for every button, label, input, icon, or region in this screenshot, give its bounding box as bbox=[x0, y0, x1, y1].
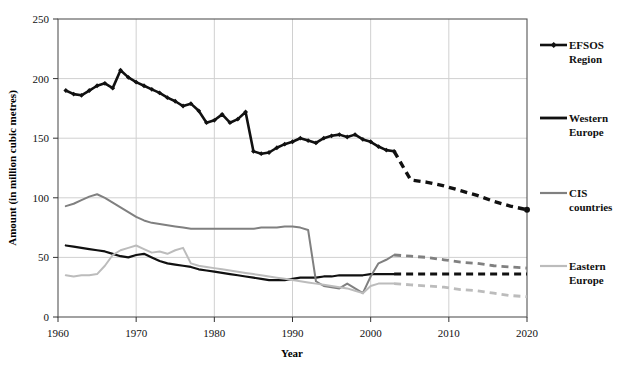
y-tick-label: 150 bbox=[33, 132, 50, 144]
x-tick-label: 2000 bbox=[360, 327, 383, 339]
x-axis-label: Year bbox=[281, 347, 303, 359]
x-tick-label: 1960 bbox=[47, 327, 70, 339]
legend-label-line1: Eastern bbox=[569, 260, 606, 272]
y-tick-label: 200 bbox=[33, 73, 50, 85]
x-tick-label: 1970 bbox=[125, 327, 148, 339]
y-axis-label: Amount (in million cubic metres) bbox=[6, 90, 19, 246]
x-tick-label: 1980 bbox=[203, 327, 226, 339]
legend-label-line2: Europe bbox=[569, 126, 604, 138]
forecast-endpoint-marker bbox=[524, 207, 530, 213]
y-tick-label: 0 bbox=[44, 311, 50, 323]
chart-container: 050100150200250 196019701980199020002010… bbox=[0, 0, 624, 371]
legend-label-line2: Europe bbox=[569, 274, 604, 286]
legend-label-line1: EFSOS bbox=[569, 39, 604, 51]
legend-label-line1: CIS bbox=[569, 187, 587, 199]
x-tick-label: 2010 bbox=[438, 327, 461, 339]
legend-label-line2: Region bbox=[569, 53, 602, 65]
legend-label-line2: countries bbox=[569, 201, 613, 213]
chart-background bbox=[0, 0, 624, 371]
y-tick-label: 100 bbox=[33, 192, 50, 204]
y-tick-label: 50 bbox=[38, 251, 50, 263]
legend-label-line1: Western bbox=[569, 112, 608, 124]
line-chart-svg: 050100150200250 196019701980199020002010… bbox=[0, 0, 624, 371]
x-tick-label: 2020 bbox=[516, 327, 539, 339]
y-tick-label: 250 bbox=[33, 13, 50, 25]
x-tick-label: 1990 bbox=[282, 327, 305, 339]
